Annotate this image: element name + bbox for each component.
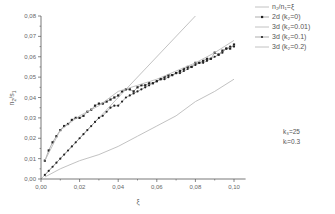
data-point	[187, 68, 189, 70]
data-point	[113, 105, 115, 107]
data-point	[75, 141, 77, 143]
y-tick-label: 0,06	[24, 54, 36, 60]
data-point	[206, 60, 208, 62]
data-point	[79, 117, 81, 119]
series-line	[45, 40, 234, 160]
data-point	[125, 96, 127, 98]
data-point	[79, 137, 81, 139]
data-point	[48, 170, 50, 172]
legend-item: 3d (k₂=0.2)	[255, 43, 306, 51]
data-point	[156, 80, 158, 82]
data-point	[82, 133, 84, 135]
legend-label: 3d (k₂=0.1)	[272, 33, 306, 41]
series-4	[45, 79, 234, 177]
data-point	[217, 54, 219, 56]
data-point	[210, 58, 212, 60]
y-axis-title-sub2: 1	[11, 90, 17, 93]
data-point	[140, 88, 142, 90]
data-point	[175, 72, 177, 74]
data-point	[109, 107, 111, 109]
legend-label: 3d (k₂=0.01)	[272, 23, 310, 31]
param-ki: kᵢ=0.3	[283, 138, 300, 145]
y-axis-title: n2/s1	[8, 90, 17, 105]
legend-label: 2d (k₂=0)	[272, 13, 301, 21]
data-point	[121, 100, 123, 102]
chart: 0,000,020,040,060,080,100,000,010,020,03…	[0, 0, 335, 214]
data-point	[206, 58, 208, 60]
data-point	[148, 82, 150, 84]
data-point	[148, 84, 150, 86]
legend-label: 3d (k₂=0.2)	[272, 43, 306, 51]
data-point	[152, 82, 154, 84]
axes: 0,000,020,040,060,080,100,000,010,020,03…	[24, 13, 245, 190]
plot-area	[41, 16, 235, 179]
y-tick-label: 0,08	[24, 13, 36, 19]
data-point	[198, 62, 200, 64]
x-tick-label: 0,08	[190, 184, 202, 190]
data-point	[202, 60, 204, 62]
legend-item: 2d (k₂=0)	[255, 13, 301, 21]
data-point	[117, 94, 119, 96]
data-point	[63, 153, 65, 155]
x-tick-label: 0,10	[228, 184, 240, 190]
series-line	[45, 79, 234, 177]
legend: n₂/n₁=ξ2d (k₂=0)3d (k₂=0.01)3d (k₂=0.1)3…	[255, 3, 310, 51]
data-point	[221, 52, 223, 54]
legend-item: 3d (k₂=0.01)	[255, 23, 310, 31]
series-3	[44, 45, 235, 176]
data-point	[129, 88, 131, 90]
y-tick-label: 0,04	[24, 95, 36, 101]
x-tick-label: 0,02	[74, 184, 86, 190]
data-point	[136, 86, 138, 88]
y-tick-label: 0,03	[24, 115, 36, 121]
data-point	[144, 84, 146, 86]
data-point	[167, 76, 169, 78]
data-point	[106, 111, 108, 113]
data-point	[233, 45, 235, 47]
data-point	[179, 70, 181, 72]
data-point	[71, 145, 73, 147]
x-tick-label: 0,04	[112, 184, 124, 190]
data-point	[202, 62, 204, 64]
data-point	[183, 70, 185, 72]
data-point	[67, 149, 69, 151]
data-point	[171, 74, 173, 76]
legend-label: n₂/n₁=ξ	[272, 3, 294, 11]
data-point	[94, 121, 96, 123]
series-2	[45, 40, 234, 160]
data-point	[98, 117, 100, 119]
legend-marker	[261, 16, 263, 18]
data-point	[229, 45, 231, 47]
data-point	[129, 94, 131, 96]
data-point	[51, 166, 53, 168]
data-point	[163, 78, 165, 80]
data-point	[133, 92, 135, 94]
x-axis-title: ξ	[136, 198, 139, 206]
y-tick-label: 0,01	[24, 156, 36, 162]
data-point	[82, 115, 84, 117]
legend-item: n₂/n₁=ξ	[255, 3, 294, 11]
data-point	[229, 48, 231, 50]
data-point	[113, 96, 115, 98]
x-tick-label: 0,00	[35, 184, 47, 190]
data-point	[221, 50, 223, 52]
data-point	[86, 129, 88, 131]
y-tick-label: 0,07	[24, 33, 36, 39]
data-point	[233, 43, 235, 45]
series-line	[45, 45, 234, 161]
data-point	[117, 105, 119, 107]
data-point	[98, 103, 100, 105]
data-point	[136, 90, 138, 92]
legend-item: 3d (k₂=0.1)	[255, 33, 306, 41]
data-point	[133, 90, 135, 92]
data-point	[194, 64, 196, 66]
y-tick-label: 0,00	[24, 176, 36, 182]
param-k3: k₃=25	[283, 128, 300, 135]
data-point	[90, 125, 92, 127]
data-point	[94, 105, 96, 107]
data-point	[214, 56, 216, 58]
series-line	[45, 47, 234, 175]
data-point	[160, 78, 162, 80]
data-point	[55, 162, 57, 164]
data-point	[59, 158, 61, 160]
